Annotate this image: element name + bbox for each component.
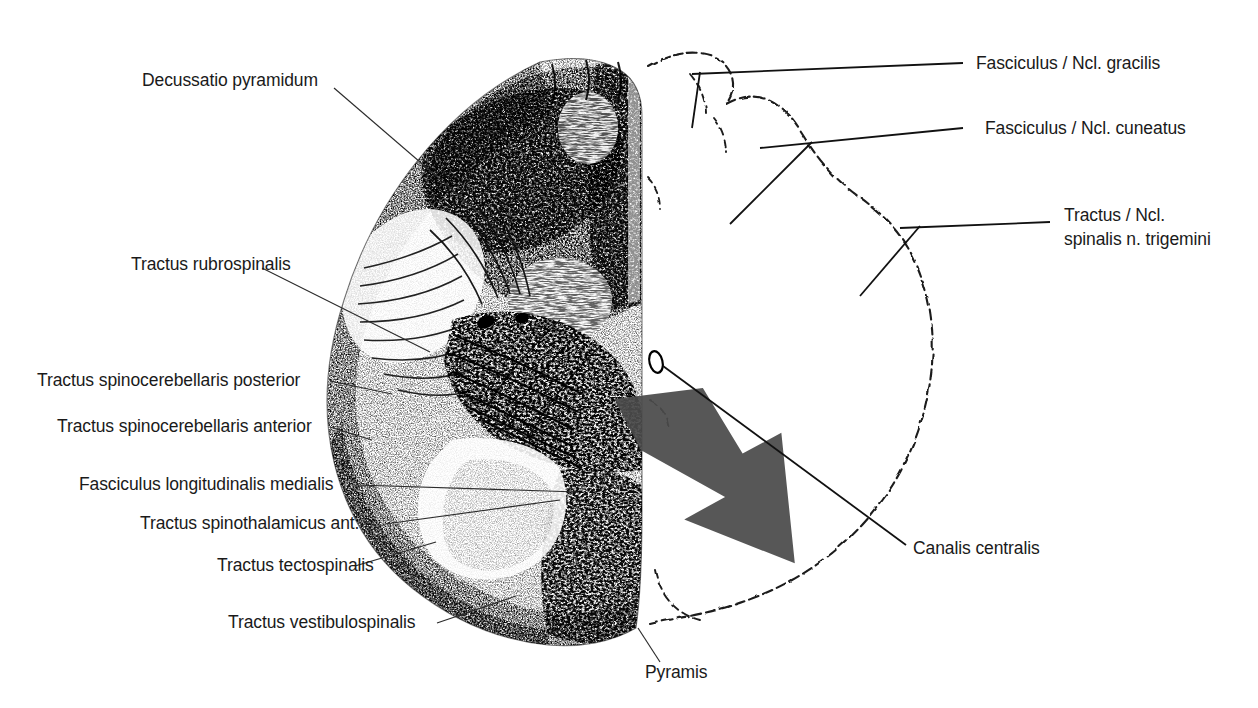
- figure-canvas: Decussatio pyramidum Tractus rubrospinal…: [0, 0, 1258, 708]
- canalis-centralis-marker: [647, 350, 665, 374]
- leader-flm: [357, 485, 578, 492]
- leader-spinothalamicus-ant: [385, 500, 560, 524]
- label-pyramis: Pyramis: [645, 660, 708, 684]
- leader-spinocerebellaris-posterior: [330, 381, 392, 394]
- label-tractus-spinothalamicus-ant: Tractus spinothalamicus ant.: [140, 511, 359, 535]
- label-decussatio-pyramidum: Decussatio pyramidum: [142, 68, 318, 92]
- label-tractus-tectospinalis: Tractus tectospinalis: [217, 553, 374, 577]
- leader-trigemini-tick: [860, 226, 920, 296]
- leader-cuneatus: [760, 128, 963, 148]
- label-tractus-ncl-spinalis-trigemini-line2: spinalis n. trigemini: [1064, 227, 1211, 251]
- label-fasciculus-longitudinalis-medialis: Fasciculus longitudinalis medialis: [79, 472, 333, 496]
- decussation-arrow: [609, 385, 801, 563]
- label-tractus-spinocerebellaris-anterior: Tractus spinocerebellaris anterior: [57, 414, 312, 438]
- leader-gracilis: [692, 63, 963, 74]
- leader-cuneatus-tick: [730, 142, 812, 224]
- leader-canalis-centralis: [663, 366, 906, 545]
- leader-lines-left: [262, 88, 578, 623]
- leader-decussatio-pyramidum: [334, 88, 520, 248]
- leader-vestibulospinalis: [437, 596, 516, 623]
- dorsal-notches: [552, 60, 621, 104]
- leader-gracilis-tick: [692, 72, 700, 128]
- leader-trigemini: [900, 222, 1050, 228]
- label-tractus-vestibulospinalis: Tractus vestibulospinalis: [228, 610, 416, 634]
- label-canalis-centralis: Canalis centralis: [913, 536, 1040, 560]
- label-tractus-spinocerebellaris-posterior: Tractus spinocerebellaris posterior: [37, 368, 300, 392]
- label-tractus-rubrospinalis: Tractus rubrospinalis: [131, 252, 291, 276]
- label-fasciculus-ncl-cuneatus: Fasciculus / Ncl. cuneatus: [985, 116, 1186, 140]
- schematic-half-outline: [648, 53, 933, 624]
- label-tractus-ncl-spinalis-trigemini-line1: Tractus / Ncl.: [1064, 203, 1165, 227]
- label-fasciculus-ncl-gracilis: Fasciculus / Ncl. gracilis: [976, 51, 1160, 75]
- specimen-outline: [327, 58, 642, 645]
- leader-pyramis: [638, 628, 660, 662]
- leader-tractus-rubrospinalis: [262, 268, 430, 352]
- leader-spinocerebellaris-anterior: [330, 427, 372, 440]
- specimen-illustration: [0, 0, 1258, 708]
